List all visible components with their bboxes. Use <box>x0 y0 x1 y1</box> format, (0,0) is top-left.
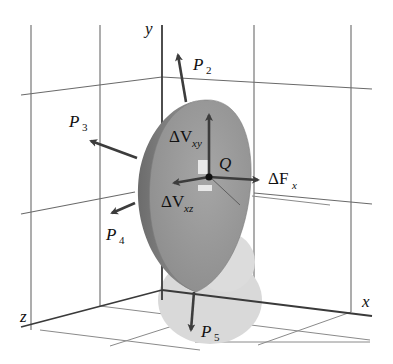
svg-text:P: P <box>68 112 79 131</box>
z-axis <box>21 290 162 327</box>
free-body-diagram: y x z Q P 2 P 3 P 4 P 5 ΔV xy ΔV xz ΔF x <box>0 0 393 364</box>
highlight <box>198 185 212 191</box>
svg-text:P: P <box>192 55 203 74</box>
highlight <box>198 160 208 174</box>
svg-text:5: 5 <box>214 331 220 343</box>
grid-line <box>162 77 372 89</box>
svg-text:4: 4 <box>119 234 125 246</box>
svg-text:3: 3 <box>82 121 88 133</box>
svg-text:ΔV: ΔV <box>169 127 193 146</box>
label-p2: P 2 <box>192 55 212 76</box>
svg-text:x: x <box>291 179 297 191</box>
label-p3: P 3 <box>68 112 88 133</box>
svg-text:P: P <box>105 225 116 244</box>
label-dfx: ΔF x <box>268 169 297 191</box>
point-q-label: Q <box>219 154 231 173</box>
grid-line <box>258 312 351 345</box>
grid-line <box>21 77 162 95</box>
svg-text:ΔF: ΔF <box>268 169 288 188</box>
svg-text:2: 2 <box>206 64 212 76</box>
force-arrow-p4 <box>112 203 135 213</box>
svg-text:ΔV: ΔV <box>161 192 185 211</box>
y-axis-label: y <box>143 19 153 38</box>
label-p4: P 4 <box>105 225 125 246</box>
svg-text:xy: xy <box>191 137 202 149</box>
x-axis-label: x <box>361 292 370 311</box>
section-line <box>252 196 330 205</box>
point-q-marker <box>206 174 213 181</box>
z-axis-label: z <box>19 307 27 326</box>
svg-text:xz: xz <box>183 202 194 214</box>
force-arrow-p3 <box>91 141 137 158</box>
svg-text:P: P <box>200 322 211 341</box>
